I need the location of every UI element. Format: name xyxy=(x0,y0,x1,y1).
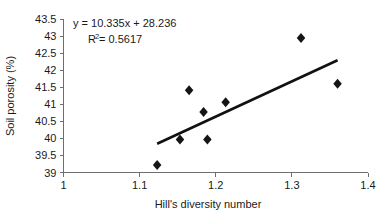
x-tick-label: 1 xyxy=(60,179,66,191)
y-tick-label: 43 xyxy=(44,30,56,42)
r-squared-value: = 0.5617 xyxy=(99,33,142,45)
x-tick-label: 1.1 xyxy=(132,179,147,191)
y-tick-label: 40 xyxy=(44,132,56,144)
y-tick-label: 42.5 xyxy=(35,47,56,59)
y-tick-label: 41 xyxy=(44,98,56,110)
x-tick-label: 1.2 xyxy=(208,179,223,191)
plot-background xyxy=(0,0,383,215)
chart-figure: 3939.54040.54141.54242.54343.5 11.11.21.… xyxy=(0,0,383,215)
y-tick-label: 39.5 xyxy=(35,149,56,161)
regression-equation-label: y = 10.335x + 28.236 xyxy=(73,17,176,29)
y-tick-label: 39 xyxy=(44,167,56,179)
y-tick-label: 40.5 xyxy=(35,115,56,127)
y-tick-label: 43.5 xyxy=(35,13,56,25)
scatter-plot: 3939.54040.54141.54242.54343.5 11.11.21.… xyxy=(0,0,383,215)
x-tick-label: 1.3 xyxy=(284,179,299,191)
y-tick-label: 41.5 xyxy=(35,81,56,93)
y-tick-label: 42 xyxy=(44,64,56,76)
y-axis-title: Soil porosity (%) xyxy=(4,56,16,136)
x-tick-label: 1.4 xyxy=(360,179,375,191)
x-axis-title: Hill's diversity number xyxy=(155,198,262,210)
